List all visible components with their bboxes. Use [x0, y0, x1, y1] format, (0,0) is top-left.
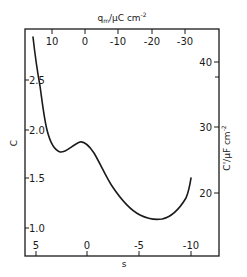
left-tick-label: 2.0 — [29, 125, 45, 136]
top-tick-label: 10 — [46, 36, 59, 47]
left-tick-label: 1.5 — [29, 173, 45, 184]
right-tick-label: 40 — [199, 57, 212, 68]
x-axis-title: s — [122, 259, 127, 269]
top-axis-title: qm/μC cm-2 — [97, 11, 146, 24]
bottom-tick-label: -10 — [183, 240, 199, 251]
y-axis-title: C — [9, 140, 19, 146]
top-axis — [52, 29, 185, 34]
right-axis — [214, 62, 219, 193]
left-tick-label: 2.5 — [29, 75, 45, 86]
plot-frame — [25, 29, 219, 256]
left-tick-label: 1.0 — [29, 223, 45, 234]
right-tick-label: 20 — [199, 188, 212, 199]
bottom-tick-label: 0 — [84, 240, 90, 251]
top-tick-label: 0 — [82, 36, 88, 47]
top-tick-label: -10 — [110, 36, 126, 47]
right-tick-label: 30 — [199, 122, 212, 133]
bottom-axis — [36, 251, 191, 256]
bottom-tick-label: -5 — [134, 240, 144, 251]
top-tick-label: -30 — [177, 36, 193, 47]
chart: 10 0 -10 -20 -30 qm/μC cm-2 5 0 -5 -10 s… — [0, 0, 247, 277]
top-tick-label: -20 — [144, 36, 160, 47]
bottom-tick-label: 5 — [33, 240, 39, 251]
data-curve — [33, 37, 191, 219]
right-axis-title: C'/μF cm-2 — [220, 125, 232, 170]
